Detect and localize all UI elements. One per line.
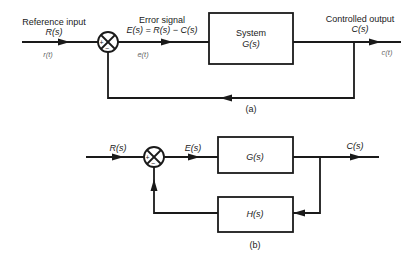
- feedback-tf: H(s): [247, 209, 264, 219]
- feedback-path-to-junction: [154, 167, 218, 213]
- output-label: Controlled output: [326, 14, 395, 24]
- plus-sign: +: [146, 154, 150, 161]
- input-label: Reference input: [22, 17, 86, 27]
- input-signal-s: R(s): [110, 143, 127, 153]
- arrow-icon: [350, 154, 362, 161]
- system-tf: G(s): [242, 39, 260, 49]
- feedback-path-to-h: [293, 157, 320, 213]
- caption-b: (b): [250, 240, 261, 250]
- arrow-icon: [188, 154, 200, 161]
- error-signal-t: e(t): [137, 50, 149, 59]
- minus-sign: −: [151, 160, 155, 167]
- minus-sign: −: [105, 45, 109, 52]
- arrow-icon: [161, 39, 173, 46]
- arrow-icon: [151, 179, 158, 191]
- summing-junction: + −: [98, 32, 118, 52]
- error-signal-s: E(s): [185, 143, 202, 153]
- input-signal-s: R(s): [46, 27, 63, 37]
- output-signal-s: C(s): [352, 24, 369, 34]
- forward-tf: G(s): [246, 152, 264, 162]
- diagram-a: + − System G(s) Reference input R(s) r(t…: [22, 13, 401, 114]
- arrow-icon: [112, 154, 124, 161]
- plus-sign: +: [100, 39, 104, 46]
- arrow-icon: [369, 39, 381, 46]
- output-signal-t: c(t): [382, 48, 393, 57]
- arrow-icon: [293, 210, 305, 217]
- summing-junction: + −: [144, 147, 164, 167]
- arrow-icon: [220, 95, 232, 102]
- error-equation: E(s) = R(s) − C(s): [127, 25, 198, 35]
- output-signal-s: C(s): [347, 141, 364, 151]
- system-label: System: [236, 28, 266, 38]
- diagram-b: + − G(s) H(s) R(s) E(s) C(s) (b): [86, 137, 379, 250]
- arrow-icon: [58, 39, 70, 46]
- block-diagrams: + − System G(s) Reference input R(s) r(t…: [0, 0, 419, 257]
- caption-a: (a): [246, 104, 257, 114]
- error-label: Error signal: [139, 15, 185, 25]
- input-signal-t: r(t): [43, 50, 53, 59]
